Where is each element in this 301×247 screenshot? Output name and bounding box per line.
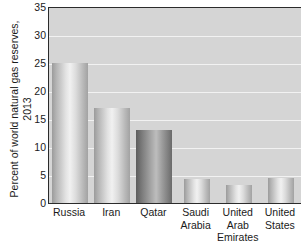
bar	[94, 108, 130, 203]
bar	[184, 179, 210, 203]
y-axis-tick-label: 35	[22, 2, 46, 12]
plot-area	[48, 7, 301, 203]
y-axis-tick-label: 30	[22, 30, 46, 40]
x-axis-tick-label-line: Qatar	[132, 206, 174, 219]
x-axis-tick-label: Russia	[48, 206, 90, 219]
bar-chart: Percent of world natural gas reserves, 2…	[0, 0, 301, 247]
x-axis-tick-label: Iran	[90, 206, 132, 219]
x-axis-tick-label-line: States	[259, 219, 301, 232]
x-axis-tick-label: Qatar	[132, 206, 174, 219]
y-axis-tick-label: 10	[22, 142, 46, 152]
bar	[136, 130, 172, 203]
x-axis-tick-labels: RussiaIranQatarSaudiArabiaUnitedArabEmir…	[48, 206, 301, 247]
y-axis-tick-label: 20	[22, 86, 46, 96]
x-axis-tick-label: UnitedArabEmirates	[217, 206, 259, 244]
x-axis-tick-label: SaudiArabia	[175, 206, 217, 231]
bar	[226, 185, 252, 203]
x-axis-line	[48, 203, 301, 204]
x-axis-tick-label-line: United	[259, 206, 301, 219]
x-axis-tick-label-line: United	[217, 206, 259, 219]
x-axis-tick-label-line: Emirates	[217, 231, 259, 244]
gridline	[49, 36, 301, 37]
y-axis-tick-label: 25	[22, 58, 46, 68]
x-axis-tick-label-line: Arabia	[175, 219, 217, 232]
y-axis-tick-label: 15	[22, 114, 46, 124]
x-axis-tick-label-line: Arab	[217, 219, 259, 232]
bar	[52, 63, 88, 203]
x-axis-tick-label-line: Russia	[48, 206, 90, 219]
x-axis-tick-label-line: Iran	[90, 206, 132, 219]
y-axis-title-line-1: Percent of world natural gas reserves,	[8, 21, 21, 198]
x-axis-tick-label-line: Saudi	[175, 206, 217, 219]
y-axis-tick-label: 0	[22, 198, 46, 208]
y-axis-tick-label: 5	[22, 170, 46, 180]
bar	[268, 178, 294, 203]
x-axis-tick-label: UnitedStates	[259, 206, 301, 231]
y-axis-tick-labels: 05101520253035	[22, 0, 46, 247]
